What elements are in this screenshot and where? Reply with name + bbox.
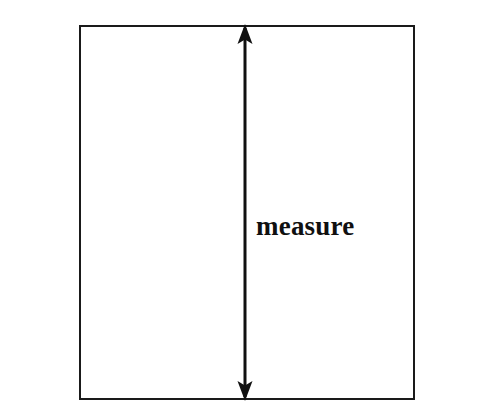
right-hatched-bar (0, 382, 34, 416)
left-hatched-bar (0, 0, 34, 382)
diagram-canvas: measure (0, 0, 482, 416)
central-rectangle (79, 25, 415, 400)
measure-label: measure (256, 213, 354, 240)
